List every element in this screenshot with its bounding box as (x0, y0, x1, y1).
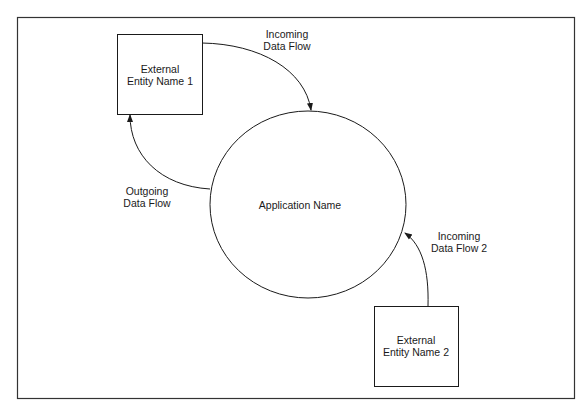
outgoing-flow-arrow (130, 115, 210, 189)
outgoing-flow-line2: Data Flow (123, 197, 170, 209)
outgoing-flow-label: Outgoing Data Flow (123, 185, 170, 209)
entity-2-line2: Entity Name 2 (383, 346, 449, 358)
incoming-flow-line1: Incoming (263, 28, 310, 40)
incoming-flow-line2: Data Flow (263, 40, 310, 52)
incoming-flow-label: Incoming Data Flow (263, 28, 310, 52)
process-label: Application Name (259, 199, 341, 211)
incoming-flow-2-line2: Data Flow 2 (431, 242, 487, 254)
entity-2-label: External Entity Name 2 (383, 334, 449, 358)
entity-1-line2: Entity Name 1 (127, 75, 193, 87)
incoming-flow-2-label: Incoming Data Flow 2 (431, 230, 487, 254)
incoming-flow-2-arrow (405, 233, 428, 306)
incoming-flow-arrow (202, 43, 311, 110)
incoming-flow-2-line1: Incoming (431, 230, 487, 242)
entity-1-line1: External (127, 63, 193, 75)
entity-2-line1: External (383, 334, 449, 346)
entity-1-label: External Entity Name 1 (127, 63, 193, 87)
outgoing-flow-line1: Outgoing (123, 185, 170, 197)
